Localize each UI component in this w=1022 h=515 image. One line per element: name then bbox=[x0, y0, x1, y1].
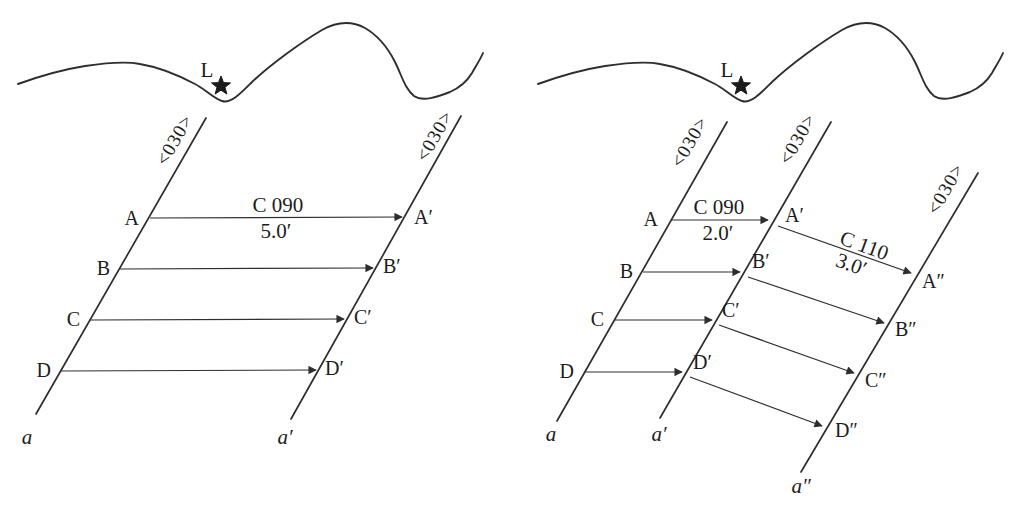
heading-label-track-a: <030> bbox=[152, 111, 198, 169]
heading-label-track-a-prime: <030> bbox=[775, 110, 821, 168]
left-panel: L <030> <030> C 090 5.0′ A B C D A′ B′ C… bbox=[18, 23, 483, 449]
point-label-B-prime: B′ bbox=[752, 250, 770, 272]
lighthouse-star-icon bbox=[212, 76, 231, 94]
bearing-arrow-d-to-d-prime bbox=[61, 370, 316, 371]
point-label-A: A bbox=[125, 207, 140, 229]
track-name-a-prime: a′ bbox=[277, 425, 293, 449]
track-name-a-prime: a′ bbox=[651, 422, 667, 446]
point-label-D: D bbox=[37, 359, 51, 381]
point-label-B-prime: B′ bbox=[383, 255, 401, 277]
point-label-D-prime: D′ bbox=[693, 351, 712, 373]
track-line-a-double-prime bbox=[801, 173, 978, 472]
landmark-label: L bbox=[201, 58, 214, 82]
heading-label-track-a-double-prime: <030> bbox=[923, 160, 969, 218]
leg-course-label: C 090 bbox=[253, 193, 304, 217]
track-name-a-double-prime: a″ bbox=[791, 474, 811, 498]
leg1-course-label: C 090 bbox=[694, 195, 745, 219]
point-label-A-prime: A′ bbox=[785, 204, 804, 226]
coastline bbox=[18, 23, 483, 101]
right-panel: L <030> <030> <030> C 090 2.0′ C 110 3.0… bbox=[538, 23, 1003, 498]
point-label-B-double-prime: B″ bbox=[895, 318, 917, 340]
point-label-D-prime: D′ bbox=[325, 357, 344, 379]
point-label-D-double-prime: D″ bbox=[835, 419, 858, 441]
point-label-C: C bbox=[67, 308, 80, 330]
leg-distance-label: 5.0′ bbox=[261, 219, 292, 243]
heading-label-track-a: <030> bbox=[667, 113, 713, 171]
bearing-arrow-b-to-b-prime bbox=[120, 268, 373, 269]
point-label-C-prime: C′ bbox=[722, 299, 740, 321]
leg1-distance-label: 2.0′ bbox=[703, 221, 734, 245]
point-label-B: B bbox=[620, 260, 633, 282]
lighthouse-star-icon bbox=[732, 76, 751, 94]
point-label-A: A bbox=[644, 208, 659, 230]
point-label-B: B bbox=[97, 257, 110, 279]
point-label-D: D bbox=[560, 360, 574, 382]
bearing-arrow-c-to-c-prime bbox=[90, 319, 344, 320]
bearing-arrow-a-to-a-prime bbox=[150, 217, 402, 218]
point-label-C-prime: C′ bbox=[354, 306, 372, 328]
landmark-label: L bbox=[721, 58, 734, 82]
point-label-C-double-prime: C″ bbox=[865, 369, 887, 391]
point-label-C: C bbox=[591, 308, 604, 330]
bearing-arrow-c-prime-to-c-double-prime bbox=[719, 325, 854, 373]
track-name-a: a bbox=[546, 422, 557, 446]
point-label-A-double-prime: A″ bbox=[922, 270, 945, 292]
point-label-A-prime: A′ bbox=[414, 206, 433, 228]
bearing-arrow-d-prime-to-d-double-prime bbox=[690, 377, 822, 426]
plotting-diagram: L <030> <030> C 090 5.0′ A B C D A′ B′ C… bbox=[0, 0, 1022, 515]
track-line-a bbox=[36, 118, 206, 414]
track-name-a: a bbox=[22, 425, 33, 449]
coastline bbox=[538, 23, 1003, 101]
track-line-a-prime bbox=[291, 116, 461, 419]
figure-canvas: L <030> <030> C 090 5.0′ A B C D A′ B′ C… bbox=[0, 0, 1022, 515]
bearing-arrow-b-prime-to-b-double-prime bbox=[748, 277, 884, 323]
